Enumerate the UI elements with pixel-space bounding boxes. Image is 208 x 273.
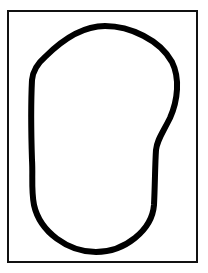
figure-canvas	[0, 0, 208, 273]
figure-frame	[8, 11, 197, 262]
bean-shape-curve	[31, 26, 177, 252]
